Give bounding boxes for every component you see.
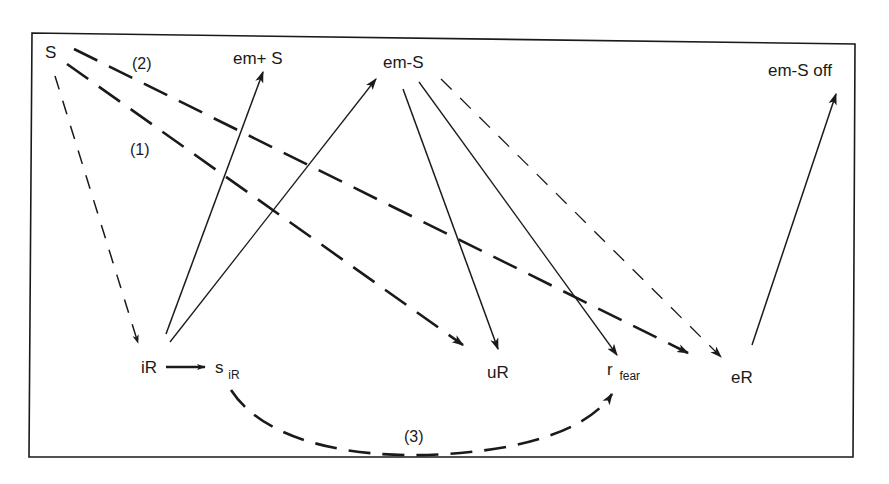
edge-s-to-er-path-2 <box>74 49 688 353</box>
node-ir: iR <box>141 358 157 377</box>
node-s-ir-subscript: iR <box>228 368 240 382</box>
edge-er-to-em-minus-s-off <box>752 94 836 345</box>
edge-em-minus-s-to-r-fear <box>419 82 617 355</box>
node-em-minus-s: em-S <box>383 53 424 72</box>
node-em-plus-s: em+ S <box>233 49 283 68</box>
node-r-fear: r fear <box>607 360 640 383</box>
edge-em-minus-s-to-ur <box>403 89 498 349</box>
node-em-minus-s-off: em-S off <box>768 61 832 80</box>
edge-label-path-2: (2) <box>132 55 152 72</box>
node-er: eR <box>731 368 753 387</box>
edge-s-to-ur-path-1 <box>67 64 463 345</box>
node-ur: uR <box>487 363 509 382</box>
edge-s-ir-to-r-fear-path-3 <box>231 390 612 455</box>
node-s-ir: s iR <box>215 358 240 382</box>
edge-label-path-3: (3) <box>404 428 424 445</box>
edge-ir-to-em-plus-s <box>166 72 263 334</box>
node-r-fear-main: r <box>607 360 613 379</box>
diagram-canvas: S em+ S em-S em-S off iR s iR uR r fear … <box>0 0 889 484</box>
edge-em-minus-s-to-er <box>441 79 721 357</box>
node-r-fear-subscript: fear <box>619 369 640 383</box>
edge-s-to-ir <box>55 76 138 343</box>
diagram-frame <box>29 33 855 457</box>
node-s-ir-main: s <box>215 358 224 377</box>
edge-ir-to-em-minus-s <box>170 79 376 342</box>
edge-label-path-1: (1) <box>130 141 150 158</box>
node-s: S <box>45 43 56 62</box>
